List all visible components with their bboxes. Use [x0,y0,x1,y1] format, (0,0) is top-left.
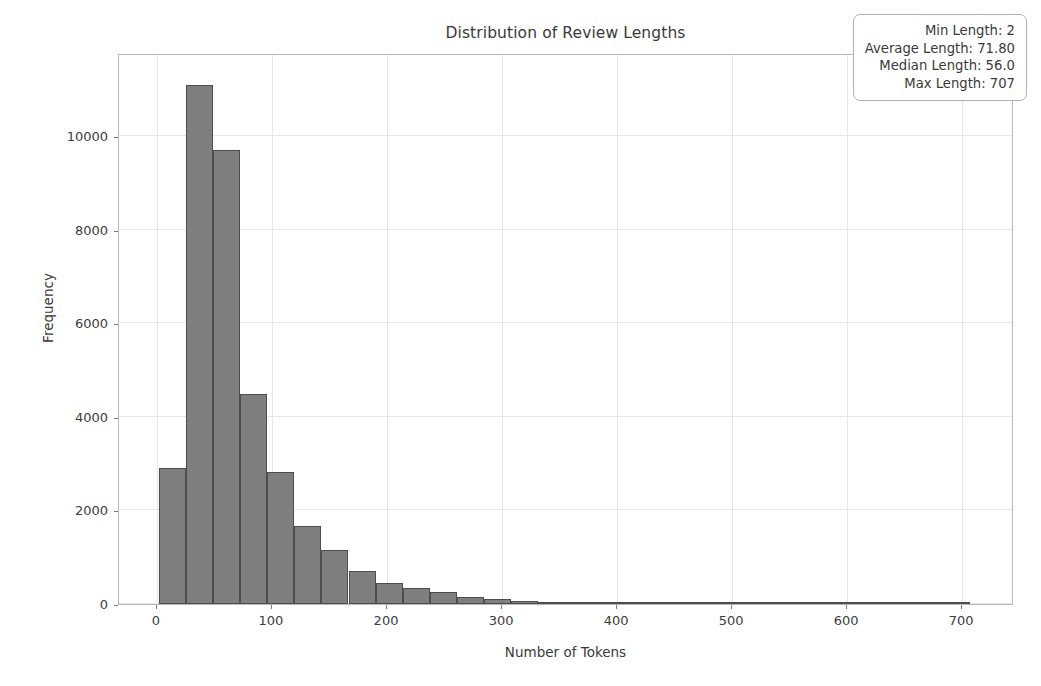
histogram-bar [538,602,565,604]
histogram-figure: Distribution of Review Lengths 020004000… [0,0,1041,686]
histogram-bar [700,602,727,604]
gridline-vertical [387,55,388,604]
histogram-bar [511,601,538,604]
x-axis-tick-mark [386,605,387,609]
x-axis-tick-label: 400 [576,613,656,628]
histogram-bar [294,526,321,604]
histogram-bar [727,602,754,604]
y-axis-tick-mark [114,324,118,325]
y-axis-tick-label: 4000 [40,410,108,425]
y-axis-tick-mark [114,511,118,512]
y-axis-label: Frequency [40,248,56,368]
x-axis-tick-mark [731,605,732,609]
x-axis-tick-label: 200 [346,613,426,628]
x-axis-tick-label: 600 [806,613,886,628]
histogram-bar [646,602,673,604]
gridline-vertical [732,55,733,604]
histogram-bar [186,85,213,604]
histogram-bar [484,599,511,604]
gridline-vertical [847,55,848,604]
y-axis-tick-label: 0 [40,597,108,612]
y-axis-tick-mark [114,231,118,232]
histogram-bar [159,468,186,604]
histogram-bar [240,394,267,604]
stat-min-length: Min Length: 2 [865,22,1015,40]
histogram-bar [943,602,970,604]
x-axis-label: Number of Tokens [118,644,1013,660]
histogram-bar [916,602,943,604]
x-axis-tick-label: 300 [461,613,541,628]
y-axis-tick-mark [114,605,118,606]
x-axis-tick-mark [501,605,502,609]
gridline-vertical [617,55,618,604]
histogram-bar [457,597,484,604]
histogram-bar [835,602,862,604]
x-axis-tick-label: 500 [691,613,771,628]
histogram-bar [781,602,808,604]
gridline-horizontal [119,322,1012,323]
plot-area [118,54,1013,605]
x-axis-tick-mark [846,605,847,609]
gridline-vertical [962,55,963,604]
y-axis-tick-mark [114,418,118,419]
x-axis-tick-mark [616,605,617,609]
histogram-bar [349,571,376,604]
x-axis-tick-mark [156,605,157,609]
gridline-vertical [157,55,158,604]
gridline-horizontal [119,135,1012,136]
gridline-horizontal [119,229,1012,230]
histogram-bar [619,602,646,604]
histogram-bar [673,602,700,604]
histogram-bar [565,602,592,604]
histogram-bar [862,602,889,604]
histogram-bar [430,592,457,604]
histogram-bar [376,583,403,604]
histogram-bar [592,602,619,604]
x-axis-tick-label: 100 [231,613,311,628]
x-axis-tick-mark [271,605,272,609]
stat-median-length: Median Length: 56.0 [865,57,1015,75]
y-axis-tick-label: 8000 [40,223,108,238]
x-axis-tick-mark [961,605,962,609]
stat-average-length: Average Length: 71.80 [865,40,1015,58]
stat-max-length: Max Length: 707 [865,75,1015,93]
stats-box: Min Length: 2 Average Length: 71.80 Medi… [853,14,1027,101]
histogram-bar [403,588,430,604]
y-axis-tick-label: 10000 [40,129,108,144]
y-axis-tick-mark [114,137,118,138]
x-axis-tick-label: 700 [921,613,1001,628]
histogram-bar [321,550,348,604]
histogram-bar [267,472,294,604]
histogram-bar [213,150,240,604]
histogram-bar [889,602,916,604]
x-axis-tick-label: 0 [116,613,196,628]
y-axis-tick-label: 2000 [40,503,108,518]
histogram-bar [808,602,835,604]
gridline-vertical [502,55,503,604]
histogram-bar [754,602,781,604]
